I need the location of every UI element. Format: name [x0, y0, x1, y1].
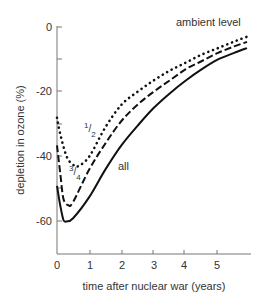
y-tick-label: -20 — [36, 85, 52, 97]
y-tick-label: -60 — [36, 215, 52, 227]
x-tick-label: 2 — [119, 259, 125, 271]
series-label-all: all — [118, 160, 129, 172]
x-ticks — [90, 250, 217, 254]
x-tick-label: 3 — [151, 259, 157, 271]
series-line-dotted — [57, 37, 247, 167]
ambient-level-label: ambient level — [176, 16, 241, 28]
x-tick-labels: 0 1 2 3 4 5 — [54, 259, 220, 271]
y-tick-label: -40 — [36, 150, 52, 162]
ozone-depletion-chart: 0 -20 -40 -60 0 1 2 3 4 5 time after nuc… — [0, 0, 264, 301]
x-axis-label: time after nuclear war (years) — [82, 280, 225, 292]
y-axis-label: depletion in ozone (%) — [14, 85, 26, 194]
y-tick-label: 0 — [46, 21, 52, 33]
y-tick-labels: 0 -20 -40 -60 — [36, 21, 52, 227]
x-tick-label: 5 — [214, 259, 220, 271]
x-tick-label: 1 — [87, 259, 93, 271]
x-tick-label: 4 — [181, 259, 187, 271]
x-tick-label: 0 — [54, 259, 60, 271]
series-label-half: 1/2 — [84, 121, 96, 139]
series-label-three-quarters: 3/4 — [69, 164, 81, 182]
series-line-solid — [57, 48, 247, 222]
